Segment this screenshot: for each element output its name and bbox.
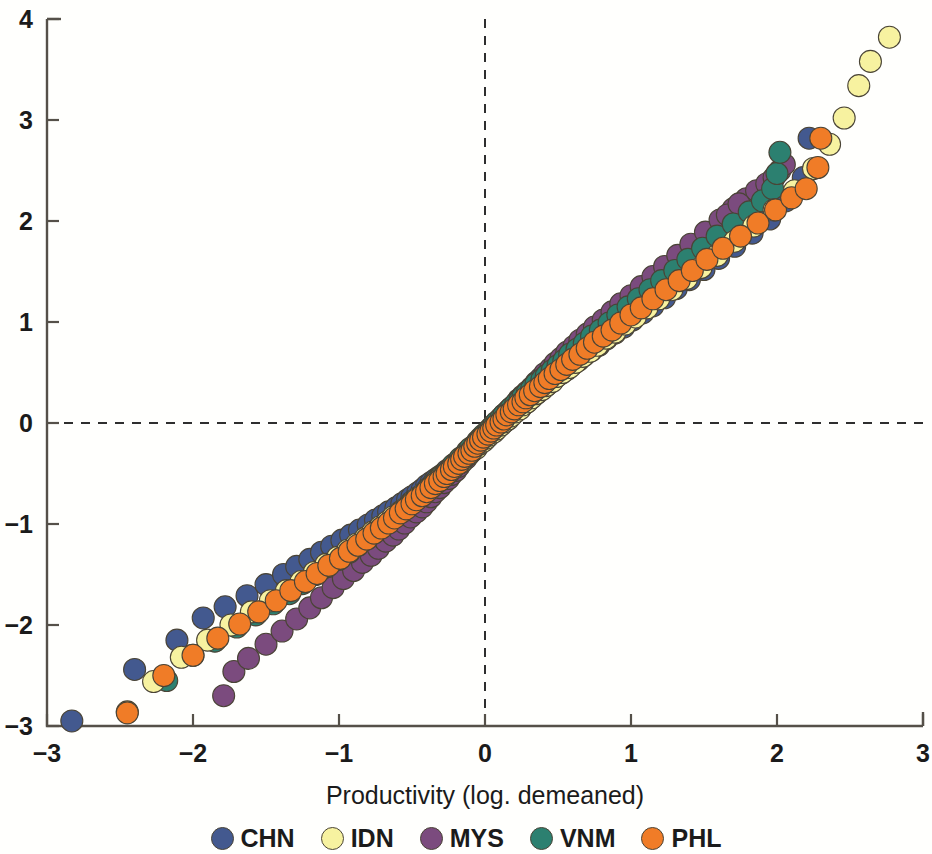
legend-label: PHL — [671, 826, 721, 851]
x-tick-label: −1 — [325, 739, 354, 767]
plot-canvas: −3−2−101234−3−2−10123 Productivity (log.… — [0, 0, 932, 854]
legend-marker-icon — [321, 827, 344, 850]
tick-labels: −3−2−101234−3−2−10123 — [4, 5, 929, 767]
y-tick-label: 1 — [19, 308, 33, 336]
data-point — [229, 613, 251, 635]
x-tick-label: −2 — [179, 739, 208, 767]
data-point — [124, 658, 146, 680]
y-tick-label: 3 — [19, 106, 33, 134]
series-chn — [61, 127, 820, 732]
x-tick-label: 1 — [624, 739, 638, 767]
legend-marker-icon — [420, 827, 443, 850]
y-tick-label: 0 — [19, 409, 33, 437]
data-point — [769, 141, 791, 163]
x-tick-label: 2 — [770, 739, 784, 767]
data-point — [182, 644, 204, 666]
x-tick-label: 0 — [478, 739, 492, 767]
x-axis-title: Productivity (log. demeaned) — [326, 781, 644, 809]
legend-label: VNM — [560, 826, 616, 851]
legend-item-chn[interactable]: CHN — [211, 826, 295, 851]
reference-lines — [47, 19, 923, 726]
legend-item-mys[interactable]: MYS — [420, 826, 504, 851]
data-point — [766, 163, 788, 185]
legend-label: CHN — [241, 826, 295, 851]
data-point — [192, 607, 214, 629]
legend-item-phl[interactable]: PHL — [641, 826, 721, 851]
data-point — [795, 178, 817, 200]
chart-legend: CHNIDNMYSVNMPHL — [0, 822, 932, 854]
y-tick-label: 2 — [19, 207, 33, 235]
y-tick-label: −1 — [4, 510, 33, 538]
data-point — [810, 127, 832, 149]
legend-label: IDN — [351, 826, 394, 851]
legend-item-vnm[interactable]: VNM — [530, 826, 616, 851]
x-tick-label: −3 — [33, 739, 62, 767]
legend-marker-icon — [641, 827, 664, 850]
data-point — [61, 710, 83, 732]
y-tick-label: −3 — [4, 712, 33, 740]
legend-item-idn[interactable]: IDN — [321, 826, 394, 851]
y-tick-label: 4 — [19, 5, 33, 33]
data-point — [213, 685, 235, 707]
data-point — [878, 26, 900, 48]
data-point — [153, 665, 175, 687]
data-point — [859, 50, 881, 72]
legend-marker-icon — [530, 827, 553, 850]
data-point — [833, 107, 855, 129]
scatter-plot-figure: −3−2−101234−3−2−10123 Productivity (log.… — [0, 0, 932, 854]
legend-marker-icon — [211, 827, 234, 850]
data-points — [61, 26, 901, 732]
legend-label: MYS — [450, 826, 504, 851]
data-point — [116, 702, 138, 724]
data-point — [848, 75, 870, 97]
y-tick-label: −2 — [4, 611, 33, 639]
x-tick-label: 3 — [916, 739, 930, 767]
data-point — [207, 627, 229, 649]
data-point — [237, 647, 259, 669]
data-point — [807, 156, 829, 178]
